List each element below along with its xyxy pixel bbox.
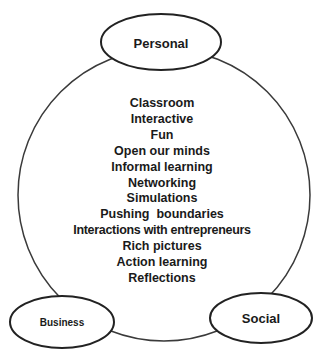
list-item: Informal learning bbox=[0, 160, 324, 176]
business-label: Business bbox=[40, 317, 84, 328]
list-item: Classroom bbox=[0, 96, 324, 112]
list-item: Reflections bbox=[0, 271, 324, 287]
list-item: Simulations bbox=[0, 191, 324, 207]
list-item: Rich pictures bbox=[0, 239, 324, 255]
list-item: Networking bbox=[0, 176, 324, 192]
learning-items-list: Classroom Interactive Fun Open our minds… bbox=[0, 96, 324, 287]
list-item: Interactions with entrepreneurs bbox=[0, 223, 324, 239]
list-item: Pushing boundaries bbox=[0, 207, 324, 223]
list-item: Interactive bbox=[0, 112, 324, 128]
personal-label: Personal bbox=[134, 36, 189, 51]
list-item: Action learning bbox=[0, 255, 324, 271]
list-item: Open our minds bbox=[0, 144, 324, 160]
list-item: Fun bbox=[0, 128, 324, 144]
social-label: Social bbox=[242, 311, 280, 326]
